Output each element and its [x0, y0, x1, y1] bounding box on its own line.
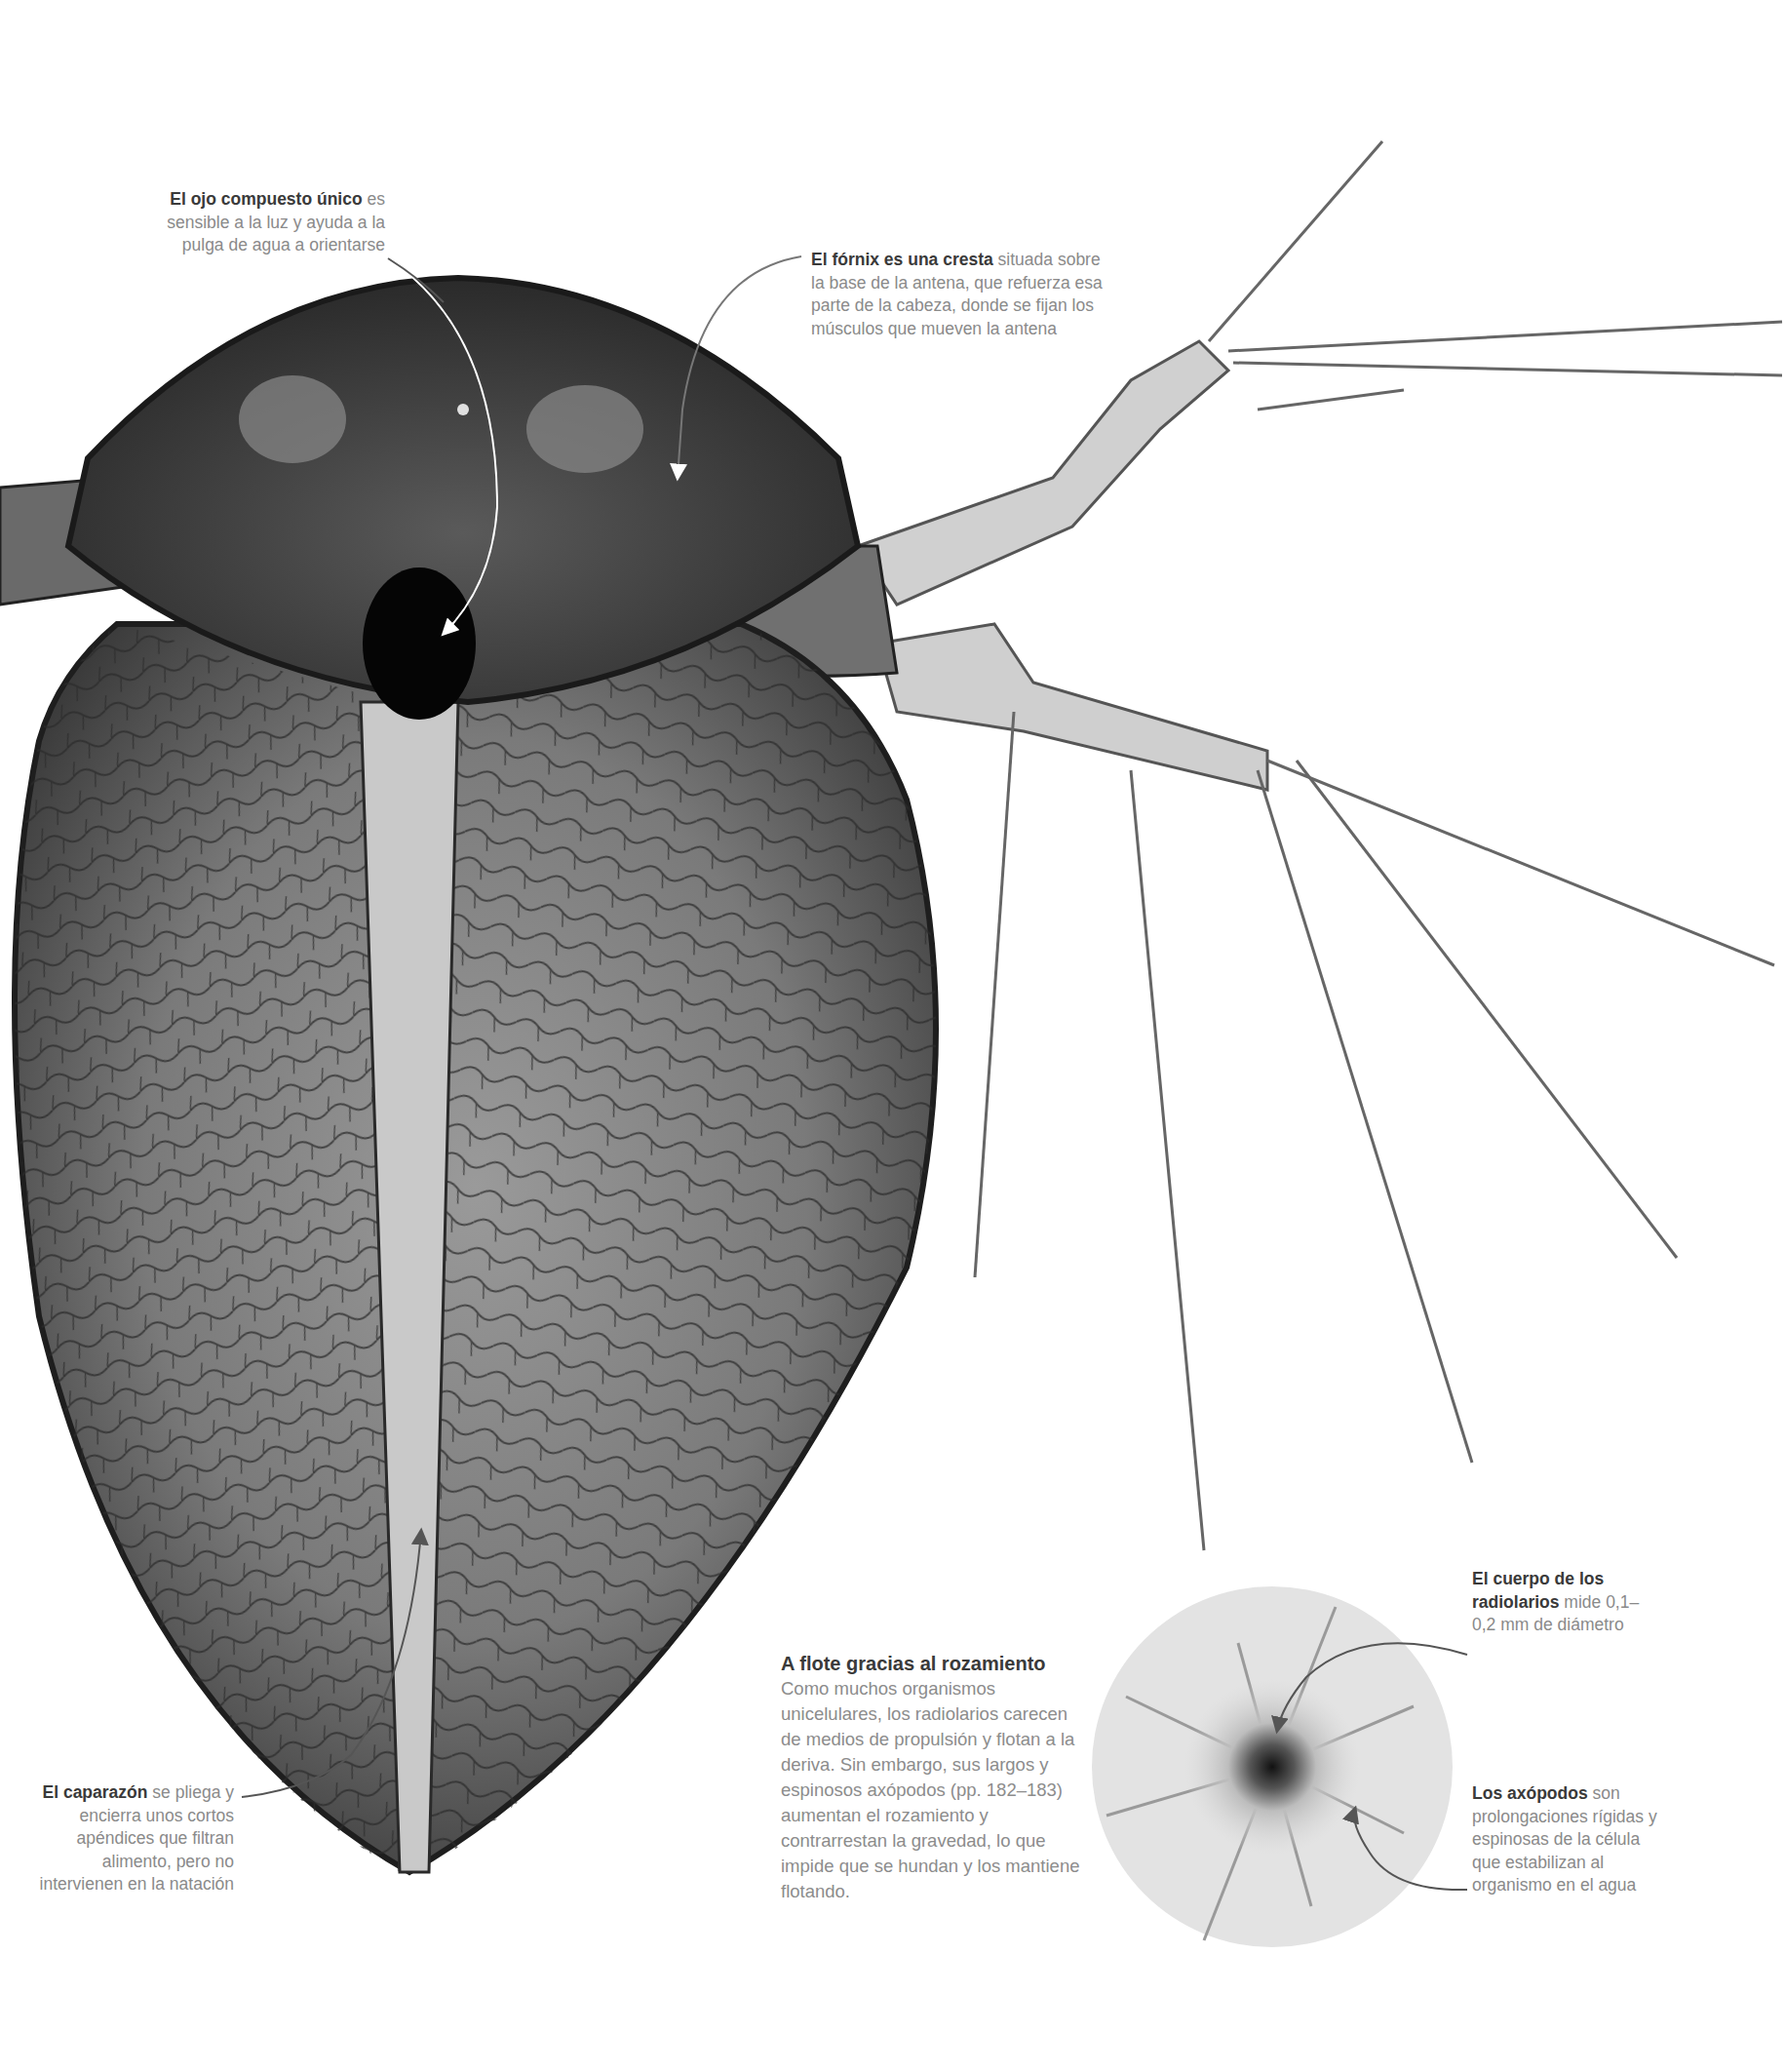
annotation-fornix-title: El fórnix es una cresta	[811, 250, 993, 269]
sidebar-box: A flote gracias al rozamiento Como mucho…	[781, 1652, 1083, 1904]
compound-eye	[363, 567, 476, 720]
antenna-upper-branch	[858, 141, 1782, 605]
annotation-carapace-title: El caparazón	[43, 1782, 148, 1802]
antenna-lower-branch	[877, 624, 1774, 1550]
sidebar-body: Como muchos organismos unicelulares, los…	[781, 1676, 1083, 1904]
annotation-compound-eye: El ojo compuesto único es sensible a la …	[127, 188, 385, 257]
annotation-axopods-title: Los axópodos	[1472, 1783, 1588, 1803]
annotation-radiolarian-body: El cuerpo de los radiolarios mide 0,1–0,…	[1472, 1568, 1648, 1637]
sidebar-title: A flote gracias al rozamiento	[781, 1652, 1083, 1676]
annotation-carapace: El caparazón se pliega y encierra unos c…	[39, 1781, 234, 1896]
book-page: El ojo compuesto único es sensible a la …	[0, 0, 1785, 2072]
annotation-compound-eye-title: El ojo compuesto único	[170, 189, 362, 209]
radiolarian-micrograph	[1092, 1586, 1467, 1947]
annotation-fornix: El fórnix es una cresta situada sobre la…	[811, 249, 1104, 340]
annotation-axopods: Los axópodos son prolongaciones rígidas …	[1472, 1782, 1667, 1897]
